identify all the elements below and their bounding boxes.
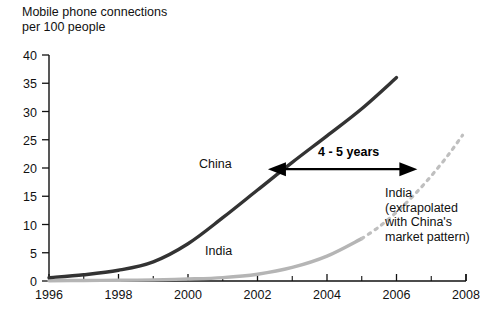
x-tick-label-1998: 1998 <box>105 288 133 302</box>
y-tick-label-0: 0 <box>30 275 37 289</box>
arrow-head-right <box>399 162 417 176</box>
x-tick-label-2004: 2004 <box>313 288 341 302</box>
time-gap-label: 4 - 5 years <box>318 145 379 159</box>
x-tick-label-2000: 2000 <box>174 288 202 302</box>
chart-figure: Mobile phone connections per 100 people … <box>0 0 493 319</box>
y-tick-label-30: 30 <box>23 106 37 120</box>
y-tick-label-35: 35 <box>23 77 37 91</box>
chart-canvas: 0 5 10 15 20 25 30 35 40 1996 1 <box>0 0 493 319</box>
y-tick-label-20: 20 <box>23 162 37 176</box>
series-label-china: China <box>199 157 232 171</box>
y-tick-label-40: 40 <box>23 49 37 63</box>
x-tick-label-2008: 2008 <box>452 288 480 302</box>
y-tick-label-15: 15 <box>23 190 37 204</box>
y-tick-label-5: 5 <box>30 247 37 261</box>
x-tick-label-2002: 2002 <box>244 288 272 302</box>
series-label-india: India <box>205 244 232 258</box>
y-tick-label-25: 25 <box>23 134 37 148</box>
india-extrapolation-note: India (extrapolated with China's market … <box>385 186 470 244</box>
x-tick-label-2006: 2006 <box>383 288 411 302</box>
y-tick-label-10: 10 <box>23 219 37 233</box>
y-axis-ticks <box>42 55 49 281</box>
x-tick-label-1996: 1996 <box>35 288 63 302</box>
